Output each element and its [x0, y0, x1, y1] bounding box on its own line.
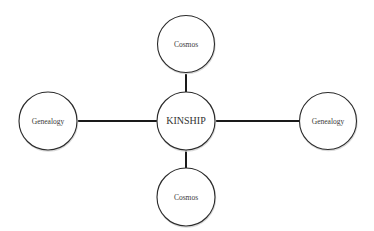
node-center: KINSHIP: [157, 92, 216, 151]
node-right: Genealogy: [300, 93, 358, 151]
node-left-label: Genealogy: [32, 117, 65, 126]
kinship-diagram: Cosmos KINSHIP Genealogy Genealogy Cosmo…: [0, 0, 374, 231]
node-top-label: Cosmos: [174, 40, 198, 49]
node-top: Cosmos: [158, 16, 216, 74]
node-right-label: Genealogy: [312, 117, 345, 126]
node-bottom-label: Cosmos: [174, 193, 198, 202]
node-bottom: Cosmos: [157, 168, 216, 227]
node-left: Genealogy: [19, 92, 78, 151]
node-center-label: KINSHIP: [166, 115, 206, 126]
